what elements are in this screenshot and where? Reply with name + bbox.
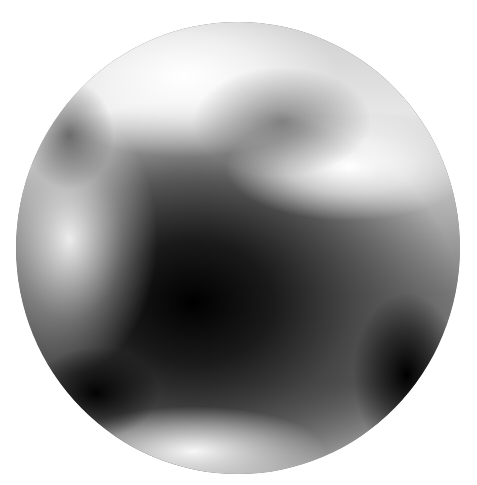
sphere-limb xyxy=(16,22,460,474)
planet-sphere xyxy=(16,22,460,474)
